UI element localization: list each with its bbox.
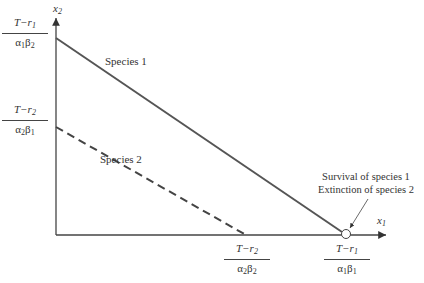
diagram-canvas xyxy=(0,0,424,283)
annotation-line-2: Extinction of species 2 xyxy=(318,183,414,196)
x-axis-label: x1 xyxy=(377,214,386,230)
annotation-arrow xyxy=(350,199,368,228)
y-axis-label: x2 xyxy=(53,2,62,18)
equilibrium-annotation: Survival of species 1 Extinction of spec… xyxy=(318,170,414,196)
species-2-label: Species 2 xyxy=(100,153,142,165)
equilibrium-point xyxy=(342,230,351,239)
species-1-line xyxy=(56,38,342,232)
y-tick-species-1-intercept: T−r1 α1β2 xyxy=(2,16,48,52)
y-tick-species-2-intercept: T−r2 α2β1 xyxy=(2,103,48,139)
species-1-label: Species 1 xyxy=(105,55,147,67)
annotation-line-1: Survival of species 1 xyxy=(318,170,414,183)
x-tick-species-1-intercept: T−r1 α1β1 xyxy=(324,242,370,278)
species-2-line xyxy=(56,127,246,235)
x-tick-species-2-intercept: T−r2 α2β2 xyxy=(224,242,270,278)
